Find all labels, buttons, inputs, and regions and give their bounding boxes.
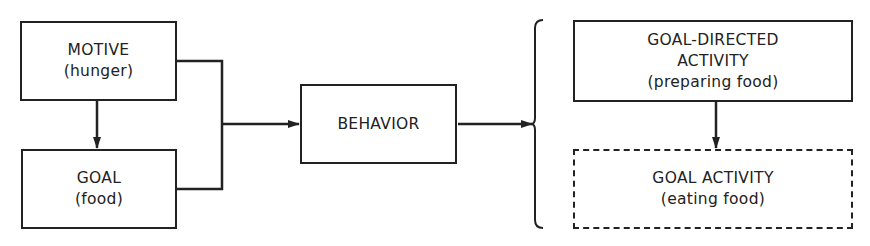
motive-subtitle: (hunger) — [64, 61, 134, 82]
brace-icon — [531, 20, 543, 228]
motive-box: MOTIVE (hunger) — [20, 21, 177, 101]
goal-directed-subtitle: (preparing food) — [647, 72, 778, 93]
motive-title: MOTIVE — [68, 40, 130, 61]
goal-directed-title-line1: GOAL-DIRECTED — [647, 30, 779, 51]
behavior-box: BEHAVIOR — [300, 84, 457, 164]
goal-activity-subtitle: (eating food) — [661, 189, 765, 210]
goal-box: GOAL (food) — [21, 149, 177, 229]
behavior-title: BEHAVIOR — [337, 114, 419, 135]
goal-subtitle: (food) — [75, 189, 123, 210]
goal-directed-title-line2: ACTIVITY — [677, 51, 749, 72]
goal-activity-box: GOAL ACTIVITY (eating food) — [573, 149, 853, 229]
merge-connector — [177, 61, 222, 189]
goal-directed-activity-box: GOAL-DIRECTED ACTIVITY (preparing food) — [573, 20, 853, 102]
goal-activity-title: GOAL ACTIVITY — [652, 168, 773, 189]
motivation-diagram: MOTIVE (hunger) GOAL (food) BEHAVIOR GOA… — [0, 0, 870, 246]
goal-title: GOAL — [77, 168, 121, 189]
